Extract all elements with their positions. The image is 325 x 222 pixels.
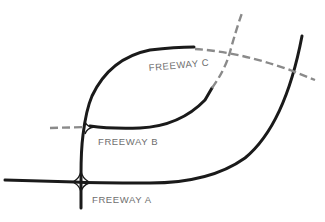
freeway-a-label: FREEWAY A bbox=[92, 194, 152, 205]
freeway-b-road bbox=[90, 88, 212, 128]
freeway-b-planned-extension bbox=[50, 127, 86, 128]
freeway-b-north-planned-extension bbox=[212, 13, 242, 88]
freeway-a-road bbox=[5, 36, 302, 183]
freeway-c-label: FREEWAY C bbox=[148, 57, 209, 73]
diagram-svg: FREEWAY C FREEWAY B FREEWAY A bbox=[0, 0, 325, 222]
freeway-b-label: FREEWAY B bbox=[98, 136, 158, 147]
interchange-ramp bbox=[85, 127, 94, 134]
freeway-diagram: FREEWAY C FREEWAY B FREEWAY A bbox=[0, 0, 325, 222]
